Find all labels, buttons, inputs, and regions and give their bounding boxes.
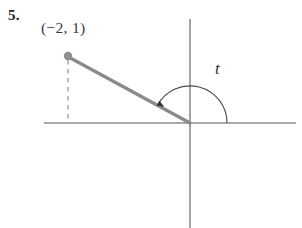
angle-arc [157,86,227,123]
problem-number: 5. [8,8,20,23]
angle-arrowhead-icon [157,101,163,106]
plotted-point-marker [64,52,72,60]
point-coordinate-label: (−2, 1) [41,20,85,36]
trigonometry-figure: 5. (−2, 1) t [0,0,302,228]
angle-variable-label: t [215,60,220,77]
